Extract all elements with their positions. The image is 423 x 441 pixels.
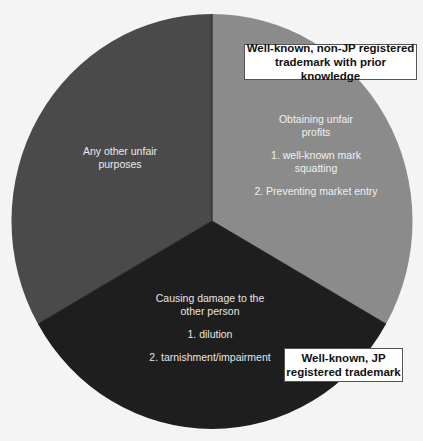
label-title-line1: Causing damage to the [140, 292, 280, 305]
callout-non-jp-registered: Well-known, non-JP registered trademark … [244, 44, 417, 80]
label-item-1: 1. dilution [140, 328, 280, 341]
callout-line1: Well-known, JP [286, 351, 400, 365]
label-title-line1: Obtaining unfair [252, 113, 380, 126]
label-title-line2: other person [140, 305, 280, 318]
label-causing-damage: Causing damage to the other person 1. di… [140, 292, 280, 364]
label-item-2: 2. Preventing market entry [252, 185, 380, 198]
callout-line2: registered trademark [286, 365, 400, 379]
callout-jp-registered: Well-known, JP registered trademark [284, 348, 403, 382]
label-title-line1: Any other unfair [60, 145, 180, 158]
label-item-1: 1. well-known mark squatting [252, 149, 380, 175]
label-obtaining-unfair-profits: Obtaining unfair profits 1. well-known m… [252, 113, 380, 198]
label-other-unfair-purposes: Any other unfair purposes [60, 145, 180, 171]
label-title-line2: profits [252, 126, 380, 139]
label-item-2: 2. tarnishment/impairment [140, 351, 280, 364]
callout-line1: Well-known, non-JP registered [245, 41, 416, 55]
callout-line2: trademark with prior knowledge [245, 55, 416, 83]
label-title-line2: purposes [60, 158, 180, 171]
